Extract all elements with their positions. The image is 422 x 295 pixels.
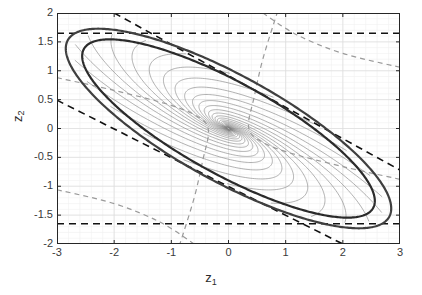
y-tick-label: -1	[19, 179, 53, 191]
y-tick-label: 1	[19, 64, 53, 76]
x-tick-label: 2	[328, 246, 358, 258]
x-tick-label: -2	[99, 246, 129, 258]
y-tick-label: 2	[19, 6, 53, 18]
x-tick-label: 0	[214, 246, 244, 258]
y-tick-label: -2	[19, 237, 53, 249]
plot-area	[57, 13, 400, 244]
x-tick-label: -1	[156, 246, 186, 258]
chart-svg	[57, 13, 400, 244]
x-tick-label: 1	[271, 246, 301, 258]
x-axis-label-subscript: 1	[212, 277, 217, 287]
grid-lines	[57, 13, 400, 244]
figure-canvas: z2 z1 -3-2-10123 -2-1.5-1-0.500.511.52	[0, 0, 422, 295]
y-axis-label-subscript: 2	[16, 111, 26, 116]
y-tick-label: 0	[19, 122, 53, 134]
x-tick-label: 3	[385, 246, 415, 258]
y-tick-label: -1.5	[19, 208, 53, 220]
y-tick-label: 0.5	[19, 93, 53, 105]
y-tick-label: -0.5	[19, 150, 53, 162]
x-axis-label: z1	[0, 270, 422, 287]
y-tick-label: 1.5	[19, 35, 53, 47]
